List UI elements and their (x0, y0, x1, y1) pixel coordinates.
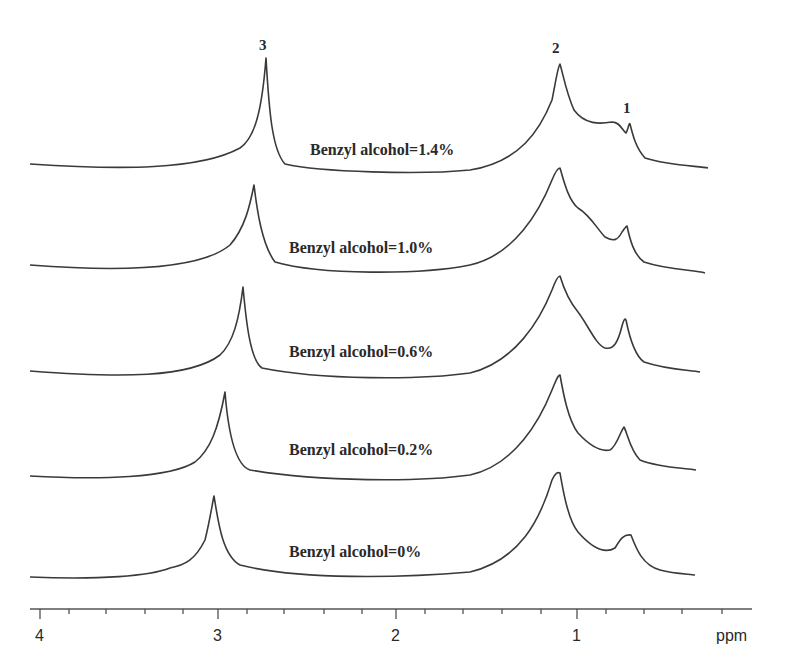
label-0-2-percent: Benzyl alcohol=0.2% (289, 441, 433, 459)
x-tick-label-2: 2 (391, 627, 400, 644)
peak-label-2: 2 (552, 40, 560, 56)
x-axis-major-ticks (40, 609, 577, 619)
x-tick-label-1: 1 (572, 627, 581, 644)
label-1-0-percent: Benzyl alcohol=1.0% (289, 239, 433, 257)
label-0-6-percent: Benzyl alcohol=0.6% (289, 343, 433, 361)
label-1-4-percent: Benzyl alcohol=1.4% (310, 141, 454, 159)
nmr-spectra-chart: 3 2 1 Benzyl alcohol=1.4% Benzyl alcohol… (0, 0, 789, 670)
spectrum-1-0-percent (30, 168, 705, 273)
x-tick-label-4: 4 (35, 627, 44, 644)
peak-label-1: 1 (623, 100, 631, 116)
x-tick-label-3: 3 (213, 627, 222, 644)
spectrum-0-percent (30, 473, 695, 578)
label-0-percent: Benzyl alcohol=0% (289, 543, 421, 561)
spectrum-0-2-percent (30, 375, 696, 480)
x-axis-unit-label: ppm (716, 627, 747, 644)
peak-label-3: 3 (259, 37, 267, 53)
spectrum-0-6-percent (30, 276, 700, 378)
